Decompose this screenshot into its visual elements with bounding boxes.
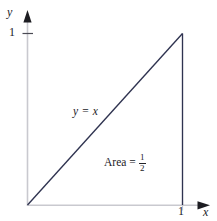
area-under-line-figure: y x 1 1 y = x Area = 1 2 — [0, 0, 217, 221]
line-equation-label: y = x — [73, 106, 98, 118]
x-axis-label: x — [203, 206, 208, 218]
y-axis-arrow-icon — [23, 10, 31, 23]
fraction-numerator: 1 — [139, 153, 146, 162]
line-y-equals-x — [28, 34, 183, 206]
x-axis-tick-label-1: 1 — [178, 205, 184, 217]
y-axis-label: y — [7, 6, 12, 18]
fraction-denominator: 2 — [139, 164, 146, 173]
area-annotation-text: Area — [104, 157, 126, 169]
one-half-fraction: 1 2 — [139, 153, 146, 174]
plot-canvas — [0, 0, 217, 221]
y-axis-tick-label-1: 1 — [9, 26, 15, 38]
area-annotation: Area = 1 2 — [104, 152, 146, 173]
area-equals-sign: = — [129, 157, 136, 169]
